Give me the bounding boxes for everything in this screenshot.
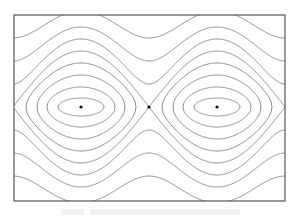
caption-figure-label (62, 209, 84, 215)
fixed-points (79, 105, 218, 108)
open-orbit-curve (10, 130, 289, 175)
saddle-point-marker (147, 105, 150, 108)
open-orbit-curve (10, 153, 289, 187)
phase-portrait-figure (0, 0, 302, 222)
open-orbit-curve (10, 39, 289, 84)
open-orbit-curve (10, 176, 289, 203)
center-point-marker (215, 105, 218, 108)
caption-text (90, 209, 240, 215)
figure-caption (0, 207, 302, 216)
center-point-marker (79, 105, 82, 108)
open-orbit-curve (10, 27, 289, 61)
